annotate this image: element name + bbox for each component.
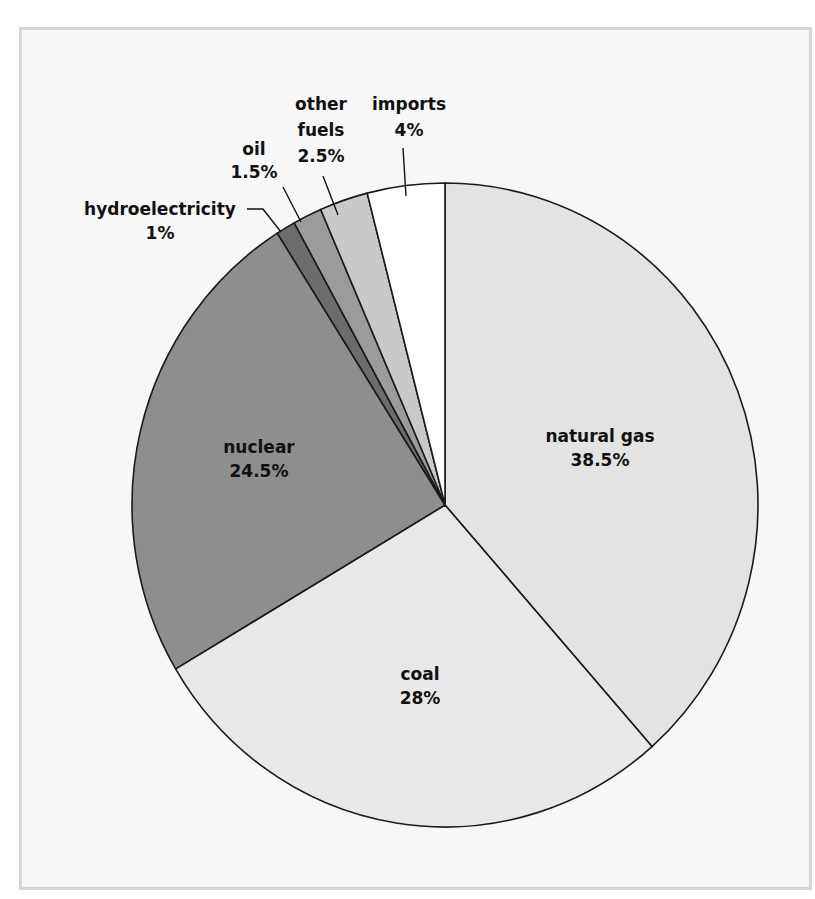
label-name: coal bbox=[400, 664, 439, 684]
label-value: 1.5% bbox=[230, 162, 277, 182]
pie-chart: natural gas 38.5% coal 28% nuclear 24.5%… bbox=[0, 0, 815, 899]
label-name: nuclear bbox=[223, 437, 295, 457]
label-name: imports bbox=[372, 94, 446, 114]
label-imports: imports 4% bbox=[372, 94, 446, 140]
label-value: 28% bbox=[400, 688, 441, 708]
leader-line-oil bbox=[283, 187, 301, 222]
label-other-fuels: other fuels 2.5% bbox=[295, 94, 347, 166]
leader-line-hydro bbox=[247, 209, 281, 232]
label-value: 2.5% bbox=[297, 146, 344, 166]
label-name-line2: fuels bbox=[298, 120, 345, 140]
label-oil: oil 1.5% bbox=[230, 139, 277, 182]
label-name-line1: other bbox=[295, 94, 347, 114]
label-value: 24.5% bbox=[230, 461, 289, 481]
label-value: 38.5% bbox=[571, 450, 630, 470]
label-hydroelectricity: hydroelectricity 1% bbox=[84, 199, 236, 243]
label-value: 1% bbox=[146, 223, 175, 243]
label-name: hydroelectricity bbox=[84, 199, 236, 219]
label-name: oil bbox=[242, 139, 265, 159]
label-value: 4% bbox=[395, 120, 424, 140]
label-name: natural gas bbox=[545, 426, 654, 446]
pie-slices bbox=[132, 183, 758, 827]
